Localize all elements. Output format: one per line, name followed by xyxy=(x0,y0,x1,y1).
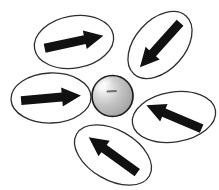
arrow-ovals-sphere-diagram xyxy=(0,0,219,190)
sphere-center-dash xyxy=(108,91,117,92)
diagram-canvas xyxy=(0,0,219,190)
